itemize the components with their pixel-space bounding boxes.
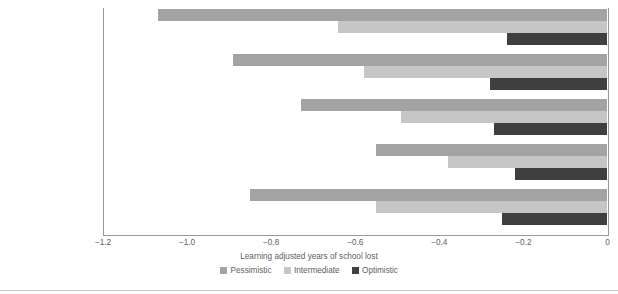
bar-intermediate <box>364 66 608 78</box>
x-axis-ticks: −1.2−1.0−0.8−0.6−0.4−0.20 <box>0 238 618 250</box>
bar-intermediate <box>401 111 607 123</box>
x-axis-tick-label: −0.6 <box>347 238 363 247</box>
bar-pessimistic <box>158 9 608 21</box>
legend-item-pessimistic[interactable]: Pessimistic <box>220 266 271 275</box>
legend-item-optimistic[interactable]: Optimistic <box>352 266 398 275</box>
category-group-high-income <box>0 8 618 53</box>
x-axis-tick-label: 0 <box>605 238 610 247</box>
legend-swatch-icon <box>220 267 227 274</box>
x-axis-title: Learning adjusted years of school lost <box>0 252 618 261</box>
bar-optimistic <box>502 213 607 225</box>
bar-pessimistic <box>233 54 607 66</box>
bar-pessimistic <box>301 99 608 111</box>
bar-pessimistic <box>376 144 607 156</box>
bar-optimistic <box>507 33 608 45</box>
chart-figure: High incomeUpper-middle incomeLower-midd… <box>0 0 618 294</box>
bar-optimistic <box>494 123 608 135</box>
legend-label: Intermediate <box>294 266 340 275</box>
legend-swatch-icon <box>352 267 359 274</box>
bar-intermediate <box>376 201 607 213</box>
x-axis-tick-label: −0.4 <box>431 238 447 247</box>
x-axis-tick-label: −0.2 <box>515 238 531 247</box>
bar-pessimistic <box>250 189 607 201</box>
bar-optimistic <box>515 168 607 180</box>
category-group-upper-middle-income <box>0 53 618 98</box>
chart-legend: PessimisticIntermediateOptimistic <box>0 266 618 275</box>
bar-optimistic <box>490 78 608 90</box>
x-axis-tick-label: −0.8 <box>263 238 279 247</box>
bar-intermediate <box>338 21 607 33</box>
legend-item-intermediate[interactable]: Intermediate <box>284 266 340 275</box>
category-group-global <box>0 188 618 233</box>
x-axis-tick-label: −1.0 <box>179 238 195 247</box>
legend-label: Optimistic <box>362 266 398 275</box>
legend-label: Pessimistic <box>231 266 272 275</box>
bar-intermediate <box>448 156 608 168</box>
legend-swatch-icon <box>284 267 291 274</box>
category-group-low-income <box>0 143 618 188</box>
footer-divider <box>0 290 618 291</box>
x-axis-tick-label: −1.2 <box>95 238 111 247</box>
category-group-lower-middle-income <box>0 98 618 143</box>
